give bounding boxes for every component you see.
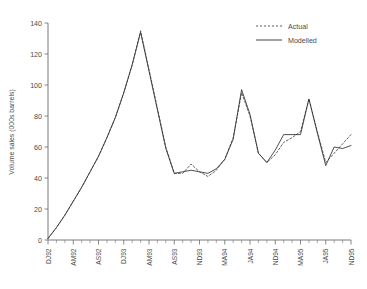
x-tick-label: AS92 <box>95 248 102 264</box>
y-tick-label: 60 <box>34 144 42 152</box>
y-tick-label: 80 <box>34 113 42 121</box>
x-tick-label: ND95 <box>348 248 355 265</box>
y-tick-label: 140 <box>30 20 42 28</box>
x-tick-label: MA94 <box>221 248 228 266</box>
x-tick-label: AM93 <box>146 248 153 266</box>
y-tick-label: 20 <box>34 206 42 214</box>
series-modelled <box>48 32 351 238</box>
y-tick-label: 100 <box>30 82 42 90</box>
x-tick-label: AS93 <box>171 248 178 264</box>
line-chart: 020406080100120140 DJ92AM92AS92DJ93AM93A… <box>0 0 367 289</box>
series-actual <box>48 31 351 239</box>
x-tick-label: JA94 <box>247 248 254 263</box>
x-tick-label: JA95 <box>322 248 329 263</box>
x-tick-label: DJ93 <box>120 248 127 264</box>
x-tick-label: ND93 <box>196 248 203 265</box>
x-tick-label: DJ92 <box>45 248 52 264</box>
y-tick-label: 40 <box>34 175 42 183</box>
y-axis-tick-labels: 020406080100120140 <box>30 20 42 245</box>
y-axis-ticks <box>45 23 49 240</box>
y-axis-title: Volume sales (000s barrels) <box>8 89 16 174</box>
legend-label-modelled: Modelled <box>288 37 317 45</box>
x-tick-label: ND94 <box>272 248 279 265</box>
x-axis-ticks <box>48 240 351 245</box>
chart-container: 020406080100120140 DJ92AM92AS92DJ93AM93A… <box>0 0 367 289</box>
chart-legend: ActualModelled <box>256 23 317 45</box>
data-series-group <box>48 31 351 239</box>
x-tick-label: MA95 <box>297 248 304 266</box>
x-tick-label: AM92 <box>70 248 77 266</box>
x-axis-tick-labels: DJ92AM92AS92DJ93AM93AS93ND93MA94JA94ND94… <box>45 248 355 266</box>
y-tick-label: 120 <box>30 51 42 59</box>
legend-label-actual: Actual <box>288 23 308 31</box>
y-tick-label: 0 <box>38 237 42 245</box>
